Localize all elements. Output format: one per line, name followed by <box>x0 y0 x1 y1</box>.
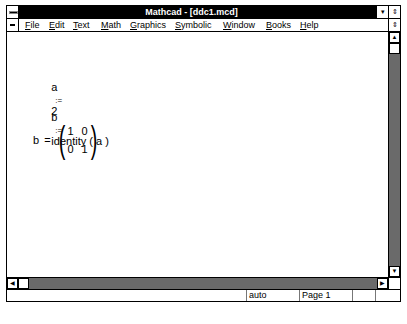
scrollbar-corner <box>388 277 400 289</box>
menu-symbolic-label: ymbolic <box>181 20 212 30</box>
eval-operator: = <box>44 134 50 146</box>
window-title: Mathcad - [ddc1.mcd] <box>7 6 376 18</box>
menu-symbolic[interactable]: Symbolic <box>175 19 212 31</box>
worksheet[interactable]: a := 2 b := identity ( a ) b = ( 1 0 0 1… <box>7 32 388 277</box>
menu-window-label: indow <box>232 20 256 30</box>
status-page: Page 1 <box>299 290 352 301</box>
matrix-cell: 1 <box>64 125 78 137</box>
menu-window[interactable]: Window <box>223 19 255 31</box>
menu-bar: File Edit Text Math Graphics Symbolic Wi… <box>7 19 400 32</box>
status-calc-mode: auto <box>246 290 299 301</box>
menu-window-mnemonic: W <box>223 20 232 30</box>
horizontal-scroll-thumb[interactable] <box>18 278 29 289</box>
matrix-cell: 1 <box>78 143 92 155</box>
menu-file-label: ile <box>31 20 40 30</box>
menu-file[interactable]: File <box>25 19 40 31</box>
mathcad-window: Mathcad - [ddc1.mcd] ▾ ⇕ File Edit Text … <box>6 5 401 302</box>
menu-text-label: ext <box>78 20 90 30</box>
restore-button[interactable]: ⇕ <box>388 6 400 18</box>
left-paren: ( <box>58 123 65 157</box>
minimize-button[interactable]: ▾ <box>376 6 388 18</box>
menu-edit-label: dit <box>55 20 65 30</box>
scroll-up-button[interactable]: ▲ <box>389 32 400 43</box>
menu-math-mnemonic: M <box>101 20 109 30</box>
result-matrix: 1 0 0 1 <box>64 125 92 155</box>
vertical-scrollbar[interactable]: ▲ ▼ <box>388 32 400 277</box>
document-restore-button[interactable]: ⇕ <box>388 19 400 31</box>
menu-books-label: ooks <box>272 20 291 30</box>
math-region-eval-b[interactable]: b = ( 1 0 0 1 ) <box>33 120 100 160</box>
status-pane-3 <box>352 290 375 301</box>
menu-help[interactable]: Help <box>300 19 319 31</box>
document-system-menu-button[interactable] <box>7 19 19 31</box>
menu-math-label: ath <box>109 20 122 30</box>
scroll-left-button[interactable]: ◀ <box>7 278 18 289</box>
matrix-cell: 0 <box>78 125 92 137</box>
menu-help-label: elp <box>307 20 319 30</box>
scroll-right-button[interactable]: ▶ <box>377 278 388 289</box>
status-pane-4 <box>375 290 400 301</box>
var-b: b <box>33 134 39 146</box>
menu-graphics[interactable]: Graphics <box>130 19 166 31</box>
document-menu-icon <box>10 24 15 26</box>
title-bar[interactable]: Mathcad - [ddc1.mcd] ▾ ⇕ <box>7 6 400 19</box>
vertical-scroll-thumb[interactable] <box>389 43 400 54</box>
menu-edit[interactable]: Edit <box>49 19 65 31</box>
menu-text[interactable]: Text <box>73 19 90 31</box>
var-a: a <box>51 81 57 93</box>
menu-graphics-mnemonic: G <box>130 20 137 30</box>
right-paren: ) <box>90 123 97 157</box>
menu-books[interactable]: Books <box>266 19 291 31</box>
matrix-cell: 0 <box>64 143 78 155</box>
scroll-down-button[interactable]: ▼ <box>389 266 400 277</box>
horizontal-scrollbar[interactable]: ◀ ▶ <box>7 277 388 289</box>
menu-math[interactable]: Math <box>101 19 121 31</box>
status-bar: auto Page 1 <box>7 289 400 301</box>
menu-graphics-label: raphics <box>137 20 166 30</box>
